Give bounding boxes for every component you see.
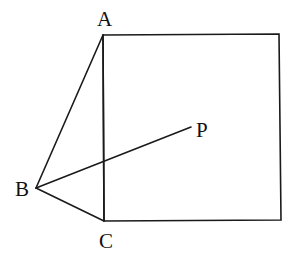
square — [103, 34, 281, 221]
label-p: P — [196, 118, 208, 142]
segment-bc — [36, 188, 104, 221]
label-a: A — [97, 7, 113, 31]
label-c: C — [99, 229, 113, 253]
segment-ac — [103, 35, 104, 221]
label-b: B — [15, 177, 29, 201]
geometry-diagram: A B C P — [0, 0, 299, 259]
